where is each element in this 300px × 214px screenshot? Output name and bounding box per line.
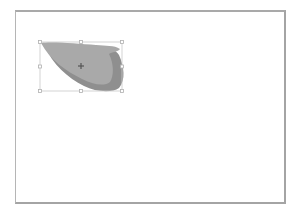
shape-layer bbox=[0, 0, 300, 214]
handle-bottom-center[interactable] bbox=[80, 90, 83, 93]
handle-bottom-right[interactable] bbox=[121, 90, 124, 93]
handle-top-left[interactable] bbox=[39, 41, 42, 44]
handle-middle-left[interactable] bbox=[39, 65, 42, 68]
handle-bottom-left[interactable] bbox=[39, 90, 42, 93]
handle-middle-right[interactable] bbox=[121, 65, 124, 68]
handle-top-right[interactable] bbox=[121, 41, 124, 44]
handle-top-center[interactable] bbox=[80, 41, 83, 44]
